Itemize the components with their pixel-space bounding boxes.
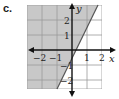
y-tick-label: 1 bbox=[64, 31, 70, 41]
y-tick-label: −1 bbox=[60, 61, 73, 71]
y-tick-label: −2 bbox=[60, 76, 73, 86]
x-tick-label: −2 bbox=[33, 53, 46, 63]
x-axis-label: x bbox=[109, 53, 115, 64]
y-axis-label: y bbox=[75, 3, 82, 14]
y-tick-label: 2 bbox=[64, 16, 70, 26]
inequality-graph: y x −2 −1 1 2 2 1 −1 −2 bbox=[0, 0, 119, 99]
x-tick-label: 1 bbox=[84, 53, 90, 63]
x-tick-label: 2 bbox=[99, 53, 105, 63]
